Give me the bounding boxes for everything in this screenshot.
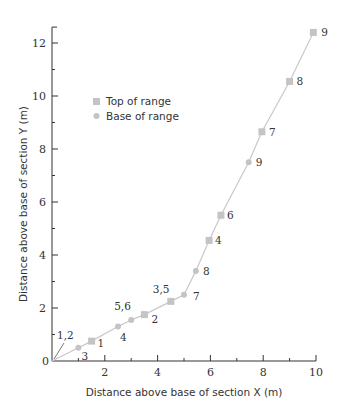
y-tick-label: 2 [39, 302, 46, 315]
chart-canvas: 24681024681012 1,2123,546789345,6789 Top… [0, 0, 348, 408]
y-tick-label: 8 [39, 143, 46, 156]
point-label: 3 [81, 350, 88, 362]
x-tick-label: 4 [154, 366, 161, 379]
base-of-range-marker [181, 292, 187, 298]
legend-base-label: Base of range [106, 110, 179, 122]
point-label: 2 [151, 313, 158, 325]
top-of-range-marker [206, 237, 213, 244]
top-of-range-marker [88, 338, 95, 345]
point-label: 7 [269, 126, 276, 138]
top-of-range-marker [258, 128, 265, 135]
legend-top-label: Top of range [105, 95, 171, 107]
legend-circle-icon [94, 113, 100, 119]
legend-square-icon [93, 98, 100, 105]
y-tick-label: 10 [32, 90, 46, 103]
data-line [52, 32, 313, 361]
base-of-range-marker [246, 159, 252, 165]
point-label: 6 [227, 209, 234, 221]
base-of-range-marker [193, 268, 199, 274]
y-tick-label: 12 [32, 37, 46, 50]
label-leader [54, 343, 64, 359]
y-axis-title: Distance above base of section Y (m) [17, 106, 29, 302]
point-label: 4 [215, 234, 222, 246]
point-labels: 1,2123,546789345,6789 [54, 26, 328, 361]
data-markers [75, 29, 316, 351]
top-of-range-marker [141, 311, 148, 318]
point-label: 5,6 [114, 300, 131, 312]
x-tick-label: 10 [309, 366, 323, 379]
origin-label: 0 [42, 355, 49, 368]
top-of-range-marker [286, 78, 293, 85]
point-label: 7 [193, 290, 200, 302]
top-of-range-marker [217, 212, 224, 219]
y-tick-label: 4 [39, 249, 46, 262]
y-tick-label: 6 [39, 196, 46, 209]
x-tick-label: 2 [101, 366, 108, 379]
point-label: 1 [98, 337, 105, 349]
point-label: 9 [321, 26, 328, 38]
base-of-range-marker [128, 317, 134, 323]
point-label: 9 [256, 156, 263, 168]
point-label: 8 [203, 265, 210, 277]
top-of-range-marker [310, 29, 317, 36]
base-of-range-marker [115, 324, 121, 330]
legend: Top of range Base of range [93, 95, 179, 122]
point-label: 8 [297, 75, 304, 87]
top-of-range-marker [167, 298, 174, 305]
point-label: 1,2 [57, 329, 74, 341]
x-tick-label: 6 [207, 366, 214, 379]
point-label: 3,5 [153, 283, 170, 295]
point-label: 4 [120, 331, 127, 343]
x-tick-label: 8 [260, 366, 267, 379]
axes: 24681024681012 [32, 27, 323, 379]
x-axis-title: Distance above base of section X (m) [86, 386, 283, 398]
